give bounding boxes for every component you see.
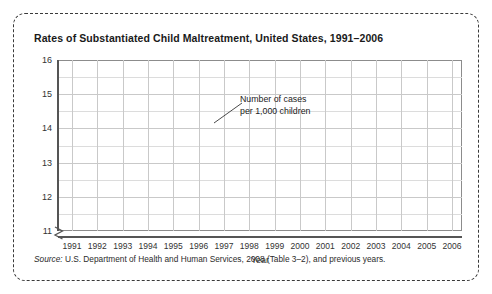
annotation-line-1: Number of cases: [240, 94, 310, 106]
y-tick-14: 14: [32, 123, 52, 133]
gridline-x-2004: [401, 60, 402, 231]
gridline-x-1994: [148, 60, 149, 231]
source-note: Source: U.S. Department of Health and Hu…: [34, 254, 385, 264]
gridline-x-2006: [452, 60, 453, 231]
gridline-x-1993: [123, 60, 124, 231]
gridline-x-1991: [72, 60, 73, 231]
x-tick-2006: 2006: [435, 241, 469, 251]
gridline-x-2002: [351, 60, 352, 231]
y-tick-15: 15: [32, 89, 52, 99]
source-label: Source:: [34, 254, 63, 264]
gridline-x-1999: [275, 60, 276, 231]
gridline-x-2005: [427, 60, 428, 231]
gridline-x-1996: [199, 60, 200, 231]
axis-break-icon: [52, 224, 66, 240]
gridline-x-2001: [325, 60, 326, 231]
chart-annotation: Number of cases per 1,000 children: [240, 94, 310, 117]
y-tick-11: 11: [32, 226, 52, 236]
gridline-x-1998: [249, 60, 250, 231]
y-axis-line: [57, 60, 59, 231]
y-tick-13: 13: [32, 158, 52, 168]
x-axis-tick-labels: 1991199219931994199519961997199819992000…: [58, 241, 462, 255]
source-text: U.S. Department of Health and Human Serv…: [63, 254, 386, 264]
annotation-leader-line: [210, 100, 244, 126]
y-tick-12: 12: [32, 192, 52, 202]
plot-area: [58, 60, 462, 231]
page-title: Rates of Substantiated Child Maltreatmen…: [34, 32, 383, 44]
gridline-x-2000: [300, 60, 301, 231]
gridline-x-1995: [173, 60, 174, 231]
x-axis-line: [58, 236, 462, 238]
figure-card: Rates of Substantiated Child Maltreatmen…: [13, 13, 479, 281]
y-axis-tick-labels: 111213141516: [28, 60, 52, 231]
annotation-line-2: per 1,000 children: [240, 106, 310, 118]
gridline-x-1992: [97, 60, 98, 231]
gridline-x-2003: [376, 60, 377, 231]
y-tick-16: 16: [32, 55, 52, 65]
gridline-x-1997: [224, 60, 225, 231]
